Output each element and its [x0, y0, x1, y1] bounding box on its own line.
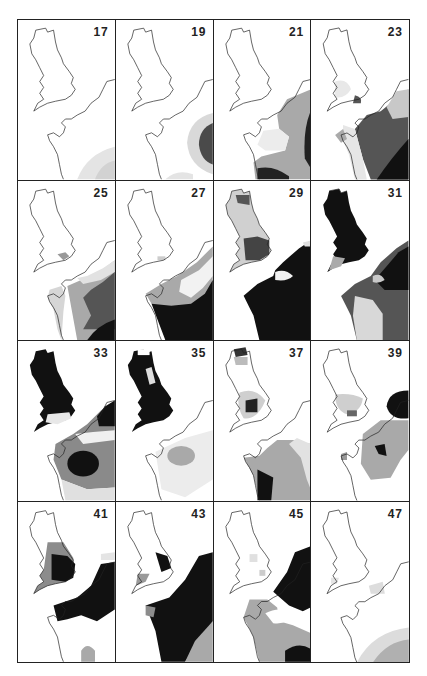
map-45-shading [214, 502, 311, 663]
map-27-shading [116, 181, 213, 341]
panel-label: 33 [93, 346, 108, 360]
map-panel-31: 31 [311, 181, 409, 342]
map-43-shading [116, 502, 213, 663]
map-panel-47: 47 [311, 502, 409, 663]
map-panel-23: 23 [311, 20, 409, 181]
map-29-shading [214, 181, 311, 341]
panel-label: 43 [191, 507, 206, 521]
map-panel-25: 25 [18, 181, 116, 342]
map-47-shading [311, 502, 409, 663]
panel-label: 37 [289, 346, 304, 360]
map-panel-19: 19 [116, 20, 214, 181]
map-37-shading [214, 341, 311, 501]
panel-label: 31 [388, 186, 403, 200]
panel-label: 27 [191, 186, 206, 200]
panel-label: 35 [191, 346, 206, 360]
map-panel-33: 33 [18, 341, 116, 502]
map-panel-29: 29 [214, 181, 312, 342]
map-23-shading [311, 20, 409, 180]
map-19-shading [116, 20, 213, 180]
panel-label: 21 [289, 25, 304, 39]
panel-label: 39 [388, 346, 403, 360]
map-panel-45: 45 [214, 502, 312, 663]
map-panel-21: 21 [214, 20, 312, 181]
map-panel-grid: 17 19 21 [17, 19, 410, 663]
panel-label: 47 [388, 507, 403, 521]
panel-label: 45 [289, 507, 304, 521]
map-17-shading [18, 20, 115, 180]
panel-label: 41 [93, 507, 108, 521]
map-33-shading [18, 341, 115, 501]
panel-label: 17 [93, 25, 108, 39]
map-35-shading [116, 341, 213, 501]
map-panel-43: 43 [116, 502, 214, 663]
panel-label: 19 [191, 25, 206, 39]
map-panel-35: 35 [116, 341, 214, 502]
map-41-shading [18, 502, 115, 663]
map-21-shading [214, 20, 311, 180]
map-panel-39: 39 [311, 341, 409, 502]
map-panel-17: 17 [18, 20, 116, 181]
map-panel-27: 27 [116, 181, 214, 342]
map-panel-37: 37 [214, 341, 312, 502]
map-31-shading [311, 181, 409, 341]
map-panel-41: 41 [18, 502, 116, 663]
map-39-shading [311, 341, 409, 501]
panel-label: 23 [388, 25, 403, 39]
map-25-shading [18, 181, 115, 341]
panel-label: 29 [289, 186, 304, 200]
panel-label: 25 [93, 186, 108, 200]
